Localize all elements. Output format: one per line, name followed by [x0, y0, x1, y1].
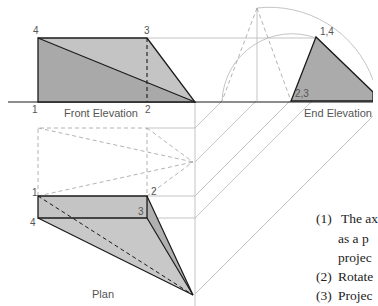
front-elevation-label: Front Elevation — [64, 108, 138, 119]
plan-label-2: 2 — [151, 187, 157, 197]
front-label-2: 2 — [145, 105, 151, 115]
note-2-num: (2) — [316, 270, 332, 284]
end-elevation-label: End Elevation — [304, 108, 372, 119]
plan-label: Plan — [92, 289, 114, 300]
front-label-4: 4 — [33, 26, 39, 36]
plan-label-4: 4 — [30, 218, 36, 228]
note-1-num: (1) — [316, 212, 332, 226]
note-2-text: Rotate — [338, 270, 373, 284]
front-label-1: 1 — [32, 105, 38, 115]
note-1-line3: projec — [338, 251, 372, 265]
plan-label-1: 1 — [32, 188, 38, 198]
note-3-text: Projec — [338, 289, 373, 303]
front-elevation-shape — [38, 38, 195, 102]
note-1-line2: as a p — [338, 232, 369, 246]
end-label-2-3: 2,3 — [295, 89, 309, 99]
front-label-3: 3 — [144, 26, 150, 36]
end-label-1-4: 1,4 — [320, 27, 334, 37]
note-3-num: (3) — [316, 289, 332, 303]
note-1-text: The ax — [341, 212, 378, 226]
plan-label-3: 3 — [138, 207, 144, 217]
plan-shape — [38, 196, 193, 295]
